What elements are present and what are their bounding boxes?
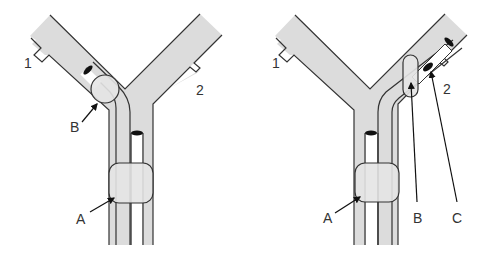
left-balloon-b xyxy=(91,75,119,103)
diagram-canvas: 1 2 B A 1 2 A B C xyxy=(0,0,490,263)
left-diagram: 1 2 B A xyxy=(24,14,222,245)
left-port-2-label: 2 xyxy=(196,82,204,98)
left-balloon-a xyxy=(109,163,153,203)
right-port-2-label: 2 xyxy=(443,81,451,97)
right-rod-tip-marker xyxy=(365,131,377,136)
right-callout-c-label: C xyxy=(452,210,462,226)
right-balloon-b xyxy=(403,55,418,97)
right-callout-a-label: A xyxy=(323,210,333,226)
left-callout-b-arrow xyxy=(82,104,97,122)
left-rod-tip-marker xyxy=(131,131,143,136)
right-port-1-label: 1 xyxy=(272,55,280,71)
left-callout-b-label: B xyxy=(70,119,79,135)
right-callout-b-arrow xyxy=(411,83,417,202)
right-diagram: 1 2 A B C xyxy=(272,14,467,245)
left-port-1-label: 1 xyxy=(24,55,32,71)
left-callout-a-label: A xyxy=(76,211,86,227)
right-balloon-a xyxy=(355,163,399,202)
right-callout-b-label: B xyxy=(413,210,422,226)
